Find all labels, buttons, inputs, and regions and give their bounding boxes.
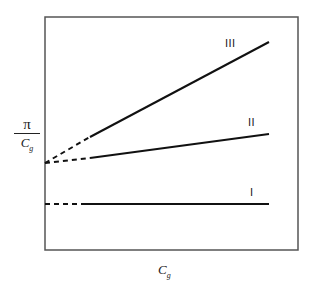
x-label-main: C [158, 262, 167, 277]
y-axis-label-numerator: π [14, 116, 40, 132]
fraction-bar [14, 133, 40, 134]
x-label-sub: g [167, 271, 171, 280]
series-II-line [90, 134, 269, 158]
series-II-extrapolation [45, 158, 90, 163]
x-axis-label: Cg [158, 262, 171, 280]
series-III-line [90, 42, 269, 137]
y-axis-label: π Cg [14, 116, 40, 156]
series-III-label: III [225, 37, 236, 49]
y-den-sub: g [29, 144, 33, 153]
chart-canvas [0, 0, 314, 286]
plot-frame [45, 17, 298, 250]
series-I-label: I [250, 186, 254, 198]
y-axis-label-denominator: Cg [14, 136, 40, 156]
series-II-label: II [248, 116, 255, 128]
